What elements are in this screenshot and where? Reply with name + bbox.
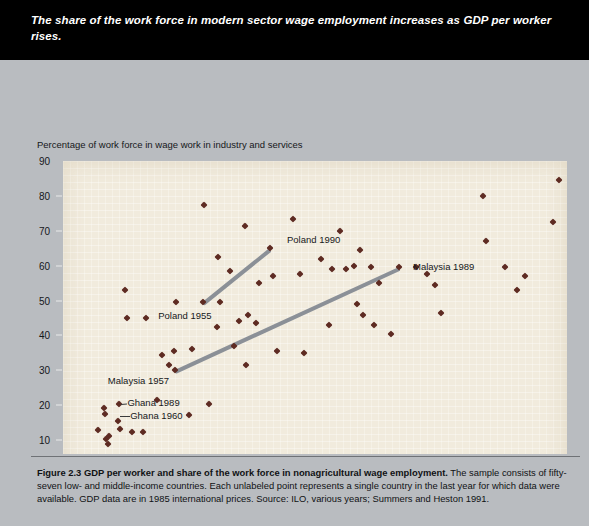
y-tick-mark <box>56 440 62 441</box>
annotation-malaysia-1989: Malaysia 1989 <box>413 261 474 272</box>
data-point <box>188 346 195 353</box>
data-point <box>226 267 233 274</box>
data-point <box>159 351 166 358</box>
data-point <box>387 330 394 337</box>
chart-body: Percentage of work force in wage work in… <box>0 60 613 454</box>
y-tick-mark <box>56 265 62 266</box>
data-point <box>317 255 324 262</box>
annotation-malaysia-1957: Malaysia 1957 <box>108 375 169 386</box>
data-point <box>253 320 260 327</box>
data-point <box>243 362 250 369</box>
caption-divider <box>31 456 580 457</box>
plot-area: Poland 1990Poland 1955Malaysia 1989Malay… <box>63 161 567 475</box>
annotation-poland-1955: Poland 1955 <box>158 310 211 321</box>
data-point <box>479 192 486 199</box>
data-point <box>289 215 296 222</box>
annotation-ghana-1960: Ghana 1960 <box>130 410 182 421</box>
y-axis-title: Percentage of work force in wage work in… <box>37 139 303 150</box>
y-tick-label: 90 <box>26 156 50 167</box>
y-tick-mark <box>56 405 62 406</box>
data-point <box>124 314 131 321</box>
annotation-poland-1990: Poland 1990 <box>287 234 340 245</box>
data-point <box>432 281 439 288</box>
annotation-ghana-1989: Ghana 1989 <box>127 397 179 408</box>
data-point <box>201 201 208 208</box>
y-tick-label: 60 <box>26 260 50 271</box>
data-point <box>269 273 276 280</box>
data-point <box>502 264 509 271</box>
data-point <box>513 287 520 294</box>
header-banner: The share of the work force in modern se… <box>0 0 613 60</box>
data-point <box>241 222 248 229</box>
y-tick-label: 80 <box>26 190 50 201</box>
data-point <box>205 401 212 408</box>
caption-area: Figure 2.3 GDP per worker and share of t… <box>0 454 613 526</box>
data-point <box>173 299 180 306</box>
data-point <box>94 426 101 433</box>
y-tick-label: 40 <box>26 330 50 341</box>
data-point <box>117 425 124 432</box>
data-point <box>555 177 562 184</box>
data-point <box>215 253 222 260</box>
y-tick-mark <box>56 230 62 231</box>
y-tick-mark <box>56 335 62 336</box>
data-point <box>359 311 366 318</box>
data-point <box>437 309 444 316</box>
header-title: The share of the work force in modern se… <box>31 12 571 44</box>
data-point <box>170 348 177 355</box>
data-point <box>255 280 262 287</box>
data-point <box>549 219 556 226</box>
y-tick-label: 70 <box>26 225 50 236</box>
data-point <box>342 266 349 273</box>
data-point <box>328 266 335 273</box>
data-point <box>300 349 307 356</box>
annotation-leader-line <box>120 416 130 417</box>
data-point <box>166 362 173 369</box>
data-point <box>325 321 332 328</box>
y-tick-mark <box>56 300 62 301</box>
y-tick-mark <box>56 370 62 371</box>
data-point <box>213 323 220 330</box>
figure-page: The share of the work force in modern se… <box>0 0 613 526</box>
data-point <box>351 262 358 269</box>
data-point <box>114 417 121 424</box>
data-point <box>106 432 113 439</box>
data-point <box>139 429 146 436</box>
figure-caption: Figure 2.3 GDP per worker and share of t… <box>37 466 582 506</box>
data-point <box>367 264 374 271</box>
data-point <box>274 348 281 355</box>
data-point <box>370 321 377 328</box>
data-point <box>216 299 223 306</box>
y-tick-label: 20 <box>26 400 50 411</box>
caption-figure-title: GDP per worker and share of the work for… <box>84 467 448 478</box>
data-point <box>521 273 528 280</box>
caption-figure-label: Figure 2.3 <box>37 467 81 478</box>
data-point <box>142 314 149 321</box>
y-tick-mark <box>56 195 62 196</box>
page-right-margin <box>589 0 613 526</box>
data-point <box>101 410 108 417</box>
data-point <box>482 238 489 245</box>
y-tick-label: 10 <box>26 435 50 446</box>
data-point <box>121 287 128 294</box>
data-point <box>353 300 360 307</box>
y-tick-label: 30 <box>26 365 50 376</box>
data-point <box>356 246 363 253</box>
data-point <box>185 411 192 418</box>
data-point <box>244 311 251 318</box>
data-point <box>376 280 383 287</box>
data-point <box>236 318 243 325</box>
data-point <box>296 271 303 278</box>
y-tick-label: 50 <box>26 295 50 306</box>
trend-line-poland <box>202 249 271 306</box>
data-point <box>128 429 135 436</box>
